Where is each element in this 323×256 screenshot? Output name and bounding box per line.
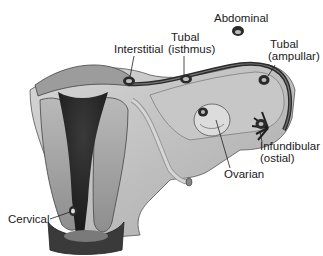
label-tubal-isthmus: Tubal (isthmus): [168, 31, 215, 55]
label-infundibular-line2: (ostial): [260, 152, 320, 164]
label-ovarian-text: Ovarian: [224, 168, 264, 180]
label-abdominal: Abdominal: [214, 12, 268, 24]
label-tubal-isthmus-line1: Tubal: [168, 31, 215, 43]
label-tubal-ampullar: Tubal (ampullar): [268, 38, 320, 62]
label-tubal-ampullar-line1: Tubal: [268, 38, 320, 50]
label-tubal-isthmus-line2: (isthmus): [168, 43, 215, 55]
label-infundibular-line1: Infundibular: [260, 140, 320, 152]
label-interstitial-text: Interstitial: [114, 43, 163, 55]
label-tubal-ampullar-line2: (ampullar): [268, 50, 320, 62]
label-cervical-text: Cervical: [8, 213, 50, 225]
label-infundibular-ostial: Infundibular (ostial): [260, 140, 320, 164]
label-cervical: Cervical: [8, 213, 50, 225]
label-interstitial: Interstitial: [114, 43, 163, 55]
label-ovarian: Ovarian: [224, 168, 264, 180]
label-abdominal-text: Abdominal: [214, 12, 268, 24]
ectopic-pregnancy-diagram: Abdominal Interstitial Tubal (isthmus) T…: [0, 0, 323, 256]
